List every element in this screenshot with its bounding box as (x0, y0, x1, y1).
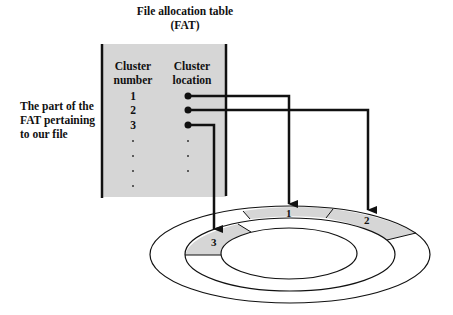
diagram-graphics: 1 2 3 (0, 0, 453, 315)
pointer-line-1 (188, 96, 289, 204)
segment-label-3: 3 (211, 236, 217, 248)
pointer-line-3 (188, 125, 214, 229)
segment-label-2: 2 (364, 214, 370, 226)
segment-label-1: 1 (286, 207, 292, 219)
disk-inner-edge (221, 228, 357, 279)
segment-2-fill (326, 209, 416, 240)
